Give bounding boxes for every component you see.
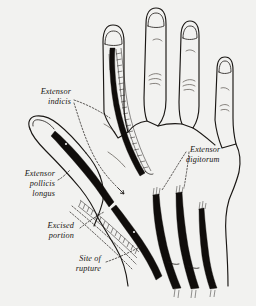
anatomical-figure: Extensor indicis Extensor pollicis longu… bbox=[0, 0, 256, 306]
thumb-tendon-highlight-2 bbox=[133, 231, 135, 233]
label-site-of-rupture-line1: Site of bbox=[79, 254, 102, 263]
label-excised-portion-line2: portion bbox=[48, 231, 74, 240]
label-extensor-pollicis-longus-line2: pollicis bbox=[29, 179, 55, 188]
label-extensor-indicis-line1: Extensor bbox=[40, 87, 72, 96]
thumb-tendon-highlight bbox=[65, 143, 67, 145]
label-extensor-digitorum-line1: Extensor bbox=[189, 145, 221, 154]
label-extensor-indicis-line2: indicis bbox=[48, 97, 71, 106]
label-extensor-digitorum-line2: digitorum bbox=[186, 155, 220, 164]
label-extensor-pollicis-longus-line3: longus bbox=[32, 189, 55, 198]
label-extensor-pollicis-longus-line1: Extensor bbox=[24, 169, 56, 178]
label-excised-portion-line1: Excised bbox=[46, 221, 74, 230]
label-site-of-rupture-line2: rupture bbox=[76, 264, 102, 273]
hand-diagram-svg: Extensor indicis Extensor pollicis longu… bbox=[0, 0, 256, 306]
